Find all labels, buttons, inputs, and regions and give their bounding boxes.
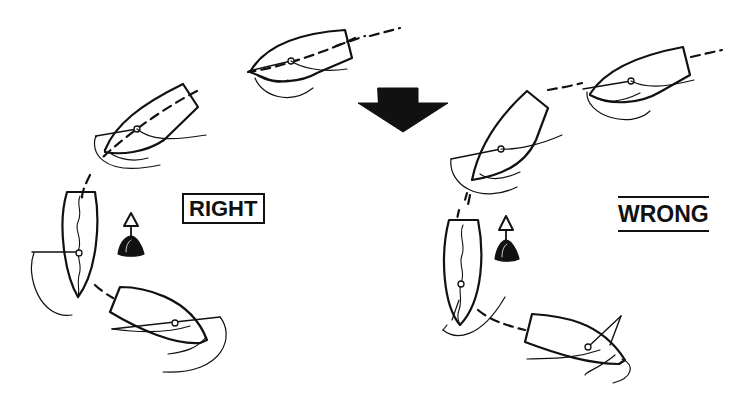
boat-wrong-3: [443, 220, 505, 335]
buoy-icon-right: [118, 213, 144, 256]
boat-right-3: [31, 192, 97, 315]
down-arrow-icon: [358, 88, 448, 132]
boat-right-4: [110, 287, 226, 372]
course-path-wrong: [370, 28, 722, 330]
boat-wrong-1: [583, 47, 694, 120]
wrong-label: WRONG: [618, 196, 709, 232]
boat-wrong-4: [525, 314, 630, 383]
boat-right-1: [249, 30, 352, 97]
boat-right-2: [94, 84, 206, 168]
right-label: RIGHT: [182, 193, 265, 224]
boat-wrong-2: [451, 91, 562, 194]
buoy-icon-wrong: [495, 216, 519, 261]
